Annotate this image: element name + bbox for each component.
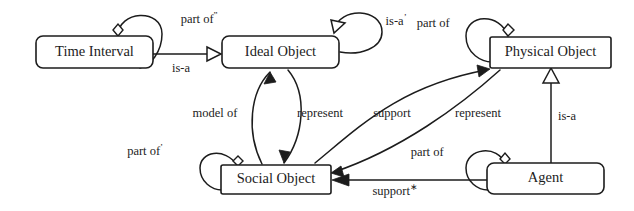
node-ideal-object[interactable]: Ideal Object	[222, 36, 339, 68]
edge-label-support-star-agent-social: support∗	[344, 180, 440, 198]
node-label-time-interval: Time Interval	[55, 43, 134, 59]
edge-model-of-social-ideal	[252, 72, 276, 164]
node-time-interval[interactable]: Time Interval	[36, 36, 153, 68]
edge-is-a-time-interval-ideal-object	[153, 47, 221, 61]
svg-text:represent: represent	[297, 106, 343, 120]
edge-label-support-social-physical: support	[373, 106, 411, 120]
edge-represent-physical-social	[331, 70, 500, 177]
diagram-canvas: Time Interval Ideal Object Physical Obje…	[0, 0, 634, 211]
svg-text:part of”: part of”	[153, 8, 240, 26]
svg-text:part of: part of	[383, 145, 466, 159]
edge-is-a-agent-physical-object	[543, 68, 559, 163]
node-label-ideal-object: Ideal Object	[245, 43, 316, 59]
association-arrow-icon	[331, 166, 344, 177]
aggregation-diamond-icon	[503, 24, 514, 36]
svg-text:support∗: support∗	[344, 180, 440, 198]
svg-text:part of’: part of’	[99, 140, 185, 158]
edge-label-is-a-time-interval: is-a	[172, 61, 191, 75]
edge-label-is-a-agent-physical-object: is-a	[558, 109, 577, 123]
svg-text:represent: represent	[455, 106, 501, 120]
edge-label-part-of-time-interval: part of”	[153, 8, 240, 26]
edge-label-part-of-agent: part of	[383, 145, 466, 159]
generalization-arrow-icon	[543, 68, 559, 83]
node-agent[interactable]: Agent	[487, 163, 604, 194]
edge-label-model-of: model of	[193, 106, 239, 120]
generalization-arrow-icon	[207, 47, 221, 61]
association-arrow-icon	[264, 72, 276, 84]
node-social-object[interactable]: Social Object	[221, 165, 331, 194]
node-label-social-object: Social Object	[237, 170, 316, 186]
edge-label-part-of-physical-object: part of	[389, 16, 472, 30]
svg-text:is-a: is-a	[172, 61, 191, 75]
svg-text:part of: part of	[389, 16, 472, 30]
association-arrow-icon	[477, 65, 490, 77]
svg-text:is-a: is-a	[558, 109, 577, 123]
svg-text:model of: model of	[193, 106, 239, 120]
node-physical-object[interactable]: Physical Object	[490, 37, 611, 68]
edge-label-part-of-prime-social-object: part of’	[99, 140, 185, 158]
generalization-arrow-icon	[331, 20, 345, 33]
svg-text:support: support	[373, 106, 411, 120]
node-label-agent: Agent	[528, 169, 563, 185]
edge-label-represent-ideal-social: represent	[297, 106, 343, 120]
diagram-svg: Time Interval Ideal Object Physical Obje…	[0, 0, 634, 211]
node-label-physical-object: Physical Object	[505, 43, 596, 59]
edge-label-represent-physical-social: represent	[455, 106, 501, 120]
